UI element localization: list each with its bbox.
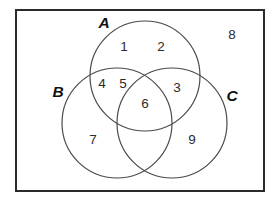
- venn-diagram-canvas: A B C 1 2 4 5 3 6 7 9 8: [0, 0, 280, 202]
- set-label-a: A: [97, 14, 109, 31]
- region-label-a-only-right: 2: [157, 39, 165, 54]
- region-label-b-only: 7: [89, 132, 97, 147]
- region-label-c-only: 9: [188, 132, 196, 147]
- set-label-b: B: [52, 83, 63, 100]
- region-label-a-and-c: 3: [173, 80, 181, 95]
- region-label-outside-all-sets: 8: [228, 27, 236, 42]
- region-label-a-and-b-and-c: 6: [141, 96, 149, 111]
- region-label-a-only-left: 1: [120, 39, 128, 54]
- region-label-a-and-b-outer: 4: [98, 76, 106, 91]
- set-label-c: C: [226, 87, 238, 104]
- venn-diagram-figure: A B C 1 2 4 5 3 6 7 9 8: [0, 0, 280, 202]
- region-label-a-and-b-inner: 5: [119, 76, 127, 91]
